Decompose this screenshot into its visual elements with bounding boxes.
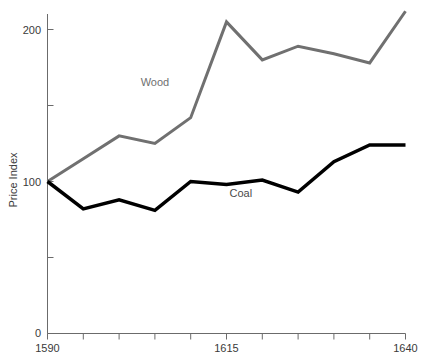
x-axis-ticks [48, 334, 406, 340]
y-axis-title: Price Index [7, 152, 19, 208]
price-index-line-chart: 0 100 200 1590 1615 1640 Price Index Woo… [0, 0, 425, 358]
x-tick-label-1590: 1590 [35, 342, 59, 354]
x-tick-label-1640: 1640 [393, 342, 417, 354]
series-label-coal: Coal [230, 187, 253, 199]
y-tick-label-100: 100 [23, 176, 41, 188]
series-label-wood: Wood [141, 76, 170, 88]
y-tick-label-200: 200 [23, 24, 41, 36]
y-tick-label-0: 0 [35, 327, 41, 339]
x-tick-label-1615: 1615 [214, 342, 238, 354]
series-line-coal [48, 145, 406, 210]
series-line-wood [48, 11, 406, 181]
chart-plot-area: 0 100 200 1590 1615 1640 Price Index Woo… [0, 0, 425, 358]
